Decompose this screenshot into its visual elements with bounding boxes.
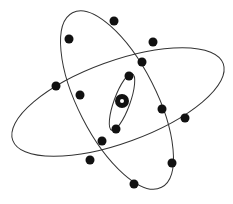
electron <box>110 17 119 26</box>
electron <box>112 125 121 134</box>
nucleus-center <box>120 99 124 103</box>
electron <box>86 156 95 165</box>
electron <box>138 58 147 67</box>
nucleus <box>115 94 129 108</box>
electron <box>181 114 190 123</box>
electron <box>130 180 139 189</box>
atom-diagram <box>0 0 233 204</box>
electron <box>65 35 74 44</box>
electron <box>168 159 177 168</box>
electron <box>98 137 107 146</box>
electron <box>52 82 61 91</box>
electron <box>158 105 167 114</box>
electron <box>149 38 158 47</box>
electron <box>76 91 85 100</box>
electron <box>125 72 134 81</box>
